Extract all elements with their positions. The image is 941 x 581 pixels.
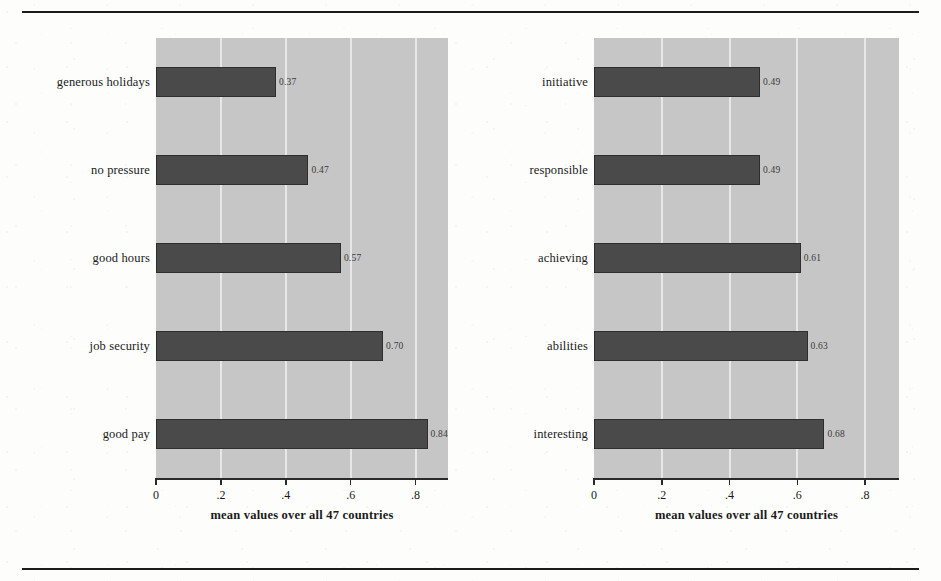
bar-value-label: 0.70 <box>386 341 403 351</box>
x-axis-line-left <box>156 478 448 480</box>
bar-value-label: 0.57 <box>344 253 361 263</box>
x-axis-left: mean values over all 47 countries 0.2.4.… <box>156 478 448 548</box>
x-axis-tick <box>661 478 663 485</box>
bar-row: 0.49 <box>594 155 899 185</box>
x-axis-tick-label: 0 <box>591 488 597 503</box>
category-label: interesting <box>534 427 588 442</box>
chart-panel-right: initiativeresponsibleachievingabilitiesi… <box>466 24 921 560</box>
bar-value-label: 0.49 <box>763 77 780 87</box>
bar <box>156 155 308 185</box>
x-axis-tick <box>350 478 352 485</box>
x-axis-tick-label: .2 <box>216 488 225 503</box>
category-label: no pressure <box>91 163 150 178</box>
x-axis-tick <box>155 478 157 485</box>
x-axis-tick-label: .8 <box>411 488 420 503</box>
bar-row: 0.57 <box>156 243 448 273</box>
x-axis-tick <box>729 478 731 485</box>
bar <box>594 419 824 449</box>
x-axis-title-left: mean values over all 47 countries <box>156 508 448 523</box>
bar-row: 0.49 <box>594 67 899 97</box>
figure-two-panel-bar-chart: generous holidaysno pressuregood hoursjo… <box>0 24 941 560</box>
x-axis-right: mean values over all 47 countries 0.2.4.… <box>594 478 899 548</box>
x-axis-tick-label: .6 <box>793 488 802 503</box>
x-axis-tick-label: 0 <box>153 488 159 503</box>
x-axis-tick-label: .6 <box>346 488 355 503</box>
x-axis-tick <box>220 478 222 485</box>
bar-value-label: 0.68 <box>827 429 844 439</box>
category-labels-left: generous holidaysno pressuregood hoursjo… <box>20 38 150 478</box>
plot-area-left: 0.370.470.570.700.84 <box>156 38 448 478</box>
bar-value-label: 0.37 <box>279 77 296 87</box>
bar-series-left: 0.370.470.570.700.84 <box>156 38 448 478</box>
bar-value-label: 0.63 <box>811 341 828 351</box>
category-label: good hours <box>93 251 150 266</box>
bar-row: 0.70 <box>156 331 448 361</box>
x-axis-tick <box>285 478 287 485</box>
bar-row: 0.37 <box>156 67 448 97</box>
bar <box>156 67 276 97</box>
bar-series-right: 0.490.490.610.630.68 <box>594 38 899 478</box>
bar <box>156 243 341 273</box>
category-label: job security <box>90 339 150 354</box>
bar-value-label: 0.47 <box>311 165 328 175</box>
bar-row: 0.63 <box>594 331 899 361</box>
x-axis-title-right: mean values over all 47 countries <box>594 508 899 523</box>
bar-row: 0.68 <box>594 419 899 449</box>
category-labels-right: initiativeresponsibleachievingabilitiesi… <box>466 38 588 478</box>
bar <box>156 331 383 361</box>
category-label: initiative <box>542 75 588 90</box>
category-label: good pay <box>103 427 150 442</box>
horizontal-rule-bottom <box>22 568 919 570</box>
bar-row: 0.47 <box>156 155 448 185</box>
x-axis-tick-label: .4 <box>725 488 734 503</box>
bar-row: 0.84 <box>156 419 448 449</box>
bar <box>594 331 808 361</box>
bar-value-label: 0.49 <box>763 165 780 175</box>
x-axis-tick <box>415 478 417 485</box>
x-axis-line-right <box>594 478 899 480</box>
bar <box>594 67 760 97</box>
chart-panel-left: generous holidaysno pressuregood hoursjo… <box>20 24 470 560</box>
bar-value-label: 0.84 <box>431 429 448 439</box>
category-label: responsible <box>529 163 588 178</box>
x-axis-tick <box>864 478 866 485</box>
x-axis-tick <box>593 478 595 485</box>
x-axis-tick-label: .8 <box>861 488 870 503</box>
x-axis-tick-label: .4 <box>281 488 290 503</box>
bar <box>594 155 760 185</box>
category-label: abilities <box>547 339 588 354</box>
bar-value-label: 0.61 <box>804 253 821 263</box>
bar-row: 0.61 <box>594 243 899 273</box>
horizontal-rule-top <box>22 11 919 13</box>
category-label: generous holidays <box>57 75 150 90</box>
x-axis-tick <box>797 478 799 485</box>
bar <box>156 419 428 449</box>
category-label: achieving <box>538 251 588 266</box>
plot-area-right: 0.490.490.610.630.68 <box>594 38 899 478</box>
x-axis-tick-label: .2 <box>657 488 666 503</box>
bar <box>594 243 801 273</box>
